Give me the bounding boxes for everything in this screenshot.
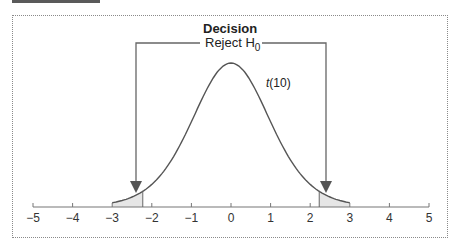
tick-label: 0	[228, 211, 235, 225]
tick-label: −1	[185, 211, 199, 225]
right-arrow-line	[262, 43, 326, 182]
tick-label: −3	[105, 211, 119, 225]
tick-label: 1	[267, 211, 274, 225]
null-hypothesis-subscript: 0	[255, 42, 261, 53]
right-arrow-head-icon	[320, 181, 332, 193]
distribution-label: t(10)	[266, 76, 291, 90]
tick-label: −4	[66, 211, 80, 225]
decision-subtitle: Reject H0	[203, 35, 262, 53]
left-arrow-head-icon	[130, 181, 142, 193]
degrees-of-freedom: (10)	[269, 76, 290, 90]
reject-label: Reject H	[205, 35, 255, 50]
left-arrow-line	[136, 43, 200, 182]
tick-label: 4	[386, 211, 393, 225]
tick-label: 2	[307, 211, 314, 225]
tick-label: −2	[145, 211, 159, 225]
decision-title: Decision	[203, 21, 257, 36]
tick-label: 5	[426, 211, 433, 225]
tick-label: −5	[26, 211, 40, 225]
t-distribution-curve	[112, 63, 350, 203]
tick-label: 3	[346, 211, 353, 225]
